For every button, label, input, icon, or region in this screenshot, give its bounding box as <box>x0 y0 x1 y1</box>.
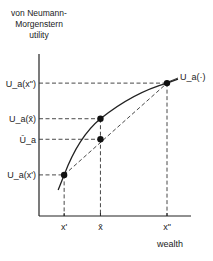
yaxis-title-line-1: von Neumann- <box>11 8 67 18</box>
point-xbar-curve <box>97 116 103 122</box>
point-x2 <box>164 80 170 86</box>
point-xbar-chord <box>97 136 103 142</box>
guide-lines <box>39 83 167 216</box>
chord-line <box>64 83 167 175</box>
yaxis-title-line-3: utility <box>29 30 49 40</box>
x-tick-label-xbar: x̄ <box>98 222 103 232</box>
yaxis-title-line-2: Morgenstern <box>15 19 63 29</box>
utility-curve <box>58 79 178 190</box>
y-tick-label-u_x2: U_a(x") <box>6 79 36 89</box>
y-tick-label-ubar: Ū_a <box>19 135 36 145</box>
utility-diagram: von Neumann- Morgenstern utility U_a(·) … <box>0 0 213 261</box>
x-tick-label-x1: x' <box>61 222 68 232</box>
curve-label: U_a(·) <box>180 72 206 82</box>
xaxis-label: wealth <box>156 239 183 249</box>
y-tick-label-u_xbar: U_a(x̄) <box>9 114 36 124</box>
point-x1 <box>61 172 67 178</box>
y-tick-label-u_x1: U_a(x') <box>7 170 36 180</box>
y-tick-labels: U_a(x")U_a(x̄)Ū_aU_a(x') <box>6 79 36 181</box>
x-tick-label-x2: x" <box>163 222 171 232</box>
